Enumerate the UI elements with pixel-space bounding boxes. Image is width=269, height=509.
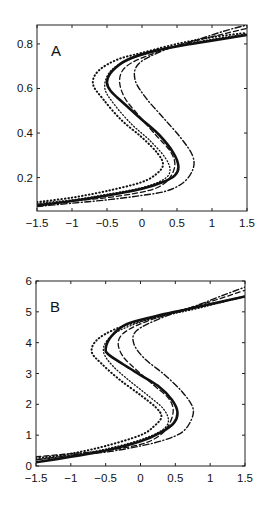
panel-label: B [50,298,60,315]
x-tick-label: −1 [64,472,77,484]
y-tick-label: 0 [26,460,32,472]
x-tick-label: −1.5 [25,472,48,484]
panel-a: −1.5−1−0.500.511.50.20.40.60.8A [17,25,255,229]
x-tick-label: 1.5 [237,472,253,484]
series-line-dotted-left [36,296,245,458]
series-line-dashed [36,290,245,457]
x-tick-label: −1.5 [26,217,49,229]
panel-label: A [51,42,61,59]
y-tick-label: 1 [26,429,32,441]
y-tick-label: 3 [26,368,32,380]
y-tick-label: 0.4 [17,127,34,139]
series-line-dash-dot-right [36,287,245,460]
y-tick-label: 0.8 [17,38,33,50]
x-tick-label: 1 [207,472,213,484]
y-tick-label: 4 [26,337,33,349]
y-tick-label: 0.2 [17,172,33,184]
x-tick-label: 0 [139,217,145,229]
x-tick-label: −0.5 [94,472,117,484]
y-tick-label: 2 [26,398,32,410]
x-tick-label: 1 [209,217,215,229]
series-group [36,287,245,462]
y-tick-label: 5 [26,306,32,318]
x-tick-label: 0.5 [167,472,183,484]
x-tick-label: 0.5 [169,217,185,229]
x-tick-label: 0 [137,472,143,484]
series-line-dash-dot-right [37,25,247,207]
y-tick-label: 0.6 [17,82,33,94]
x-tick-label: −1 [65,217,78,229]
x-tick-label: 1.5 [239,217,255,229]
series-group [37,25,247,207]
axes-frame [36,281,245,466]
y-tick-label: 6 [26,275,32,287]
figure: −1.5−1−0.500.511.50.20.40.60.8A −1.5−1−0… [0,0,269,509]
panel-b: −1.5−1−0.500.511.50123456B [25,275,253,484]
x-tick-label: −0.5 [96,217,119,229]
